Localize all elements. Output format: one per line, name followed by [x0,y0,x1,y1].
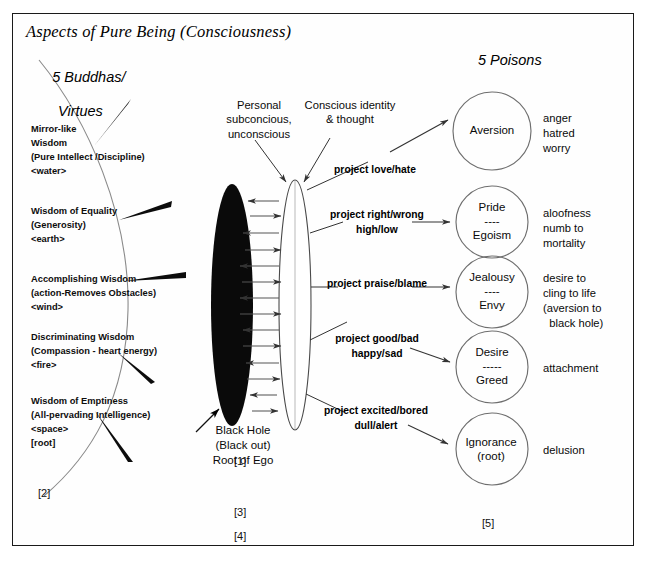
poison-label-jealousy: Jealousy ---- Envy [453,270,531,312]
wisdom-block-accomplishing: Accomplishing Wisdom (action-Removes Obs… [31,272,156,314]
poison-desc-aversion: anger hatred worry [543,111,575,156]
poison-label-pride-divider: ---- [453,214,531,228]
projection-praise-blame: project praise/blame [316,277,438,292]
poison-label-desire: Desire ----- Greed [453,345,531,387]
marker-fourth: [4] [234,530,246,543]
heading-5-poisons: 5 Poisons [478,52,542,69]
poison-label-aversion: Aversion [453,123,531,137]
poison-label-desire-secondary: Greed [453,373,531,387]
poison-label-ignorance-primary: Ignorance [452,435,530,449]
wisdom-block-emptiness: Wisdom of Emptiness (All-pervading Intel… [31,394,150,451]
black-hole-ellipse [211,184,253,426]
poison-desc-desire: attachment [543,361,598,376]
page-title: Aspects of Pure Being (Consciousness) [26,22,291,41]
poison-label-ignorance: Ignorance (root) [452,435,530,463]
marker-poisons: [5] [482,517,494,530]
wisdom-ray-2 [119,201,172,220]
marker-third: [3] [234,506,246,519]
poison-desc-pride: aloofness numb to mortality [543,206,591,251]
poison-label-jealousy-primary: Jealousy [453,270,531,284]
poison-label-aversion-primary: Aversion [453,123,531,137]
callout-conscious-identity: Conscious identity & thought [298,98,402,127]
wisdom-block-discriminating: Discriminating Wisdom (Compassion - hear… [31,330,157,372]
wisdom-block-equality: Wisdom of Equality (Generosity) <earth> [31,204,117,246]
poison-label-pride: Pride ---- Egoism [453,200,531,242]
poison-label-pride-primary: Pride [453,200,531,214]
consciousness-ellipse [279,180,311,430]
heading-buddhas-line2: Virtues [58,103,126,120]
diagram-page: Aspects of Pure Being (Consciousness) 5 … [0,0,653,572]
poison-desc-ignorance: delusion [543,443,585,458]
projection-excited-bored: project excited/bored dull/alert [310,404,442,433]
heading-buddhas-line1: 5 Buddhas/ [52,69,125,85]
callout-personal-subconscious: Personal subconcious, unconscious [216,98,302,141]
poison-label-desire-divider: ----- [453,359,531,373]
marker-left-column: [2] [38,487,50,500]
poison-label-pride-secondary: Egoism [453,228,531,242]
poison-desc-jealousy: desire to cling to life (aversion to bla… [543,271,603,331]
projection-love-hate: project love/hate [316,163,434,178]
poison-label-jealousy-secondary: Envy [453,298,531,312]
poison-label-desire-primary: Desire [453,345,531,359]
marker-black-hole: [1] [234,455,246,468]
projection-good-bad: project good/bad happy/sad [316,332,438,361]
wisdom-block-mirror-like: Mirror-like Wisdom (Pure Intellect /Disc… [31,122,145,179]
poison-label-ignorance-secondary: (root) [452,449,530,463]
poison-label-jealousy-divider: ---- [453,284,531,298]
projection-right-wrong: project right/wrong high/low [316,208,438,237]
